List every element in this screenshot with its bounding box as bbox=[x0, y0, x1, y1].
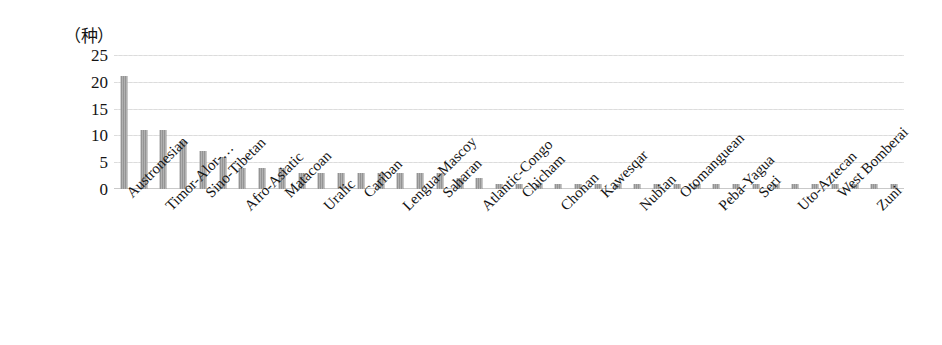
bar-slot bbox=[647, 55, 667, 189]
y-axis-tick-label: 0 bbox=[64, 181, 108, 198]
bar-chart-figure: （种） 0510152025 AustronesianTimor-Alor-…S… bbox=[0, 0, 942, 345]
bar[interactable] bbox=[792, 184, 799, 189]
bar[interactable] bbox=[397, 173, 404, 189]
y-axis-unit-label: （种） bbox=[64, 22, 114, 47]
y-axis-tick-label: 20 bbox=[64, 73, 108, 90]
bar-slot bbox=[252, 55, 272, 189]
bar[interactable] bbox=[476, 178, 483, 189]
bar-slot bbox=[173, 55, 193, 189]
bar-slot bbox=[351, 55, 371, 189]
bar[interactable] bbox=[555, 184, 562, 189]
bar-slot bbox=[489, 55, 509, 189]
x-axis-labels: AustronesianTimor-Alor-…Sino-TibetanAfro… bbox=[114, 190, 904, 340]
y-axis-tick-label: 15 bbox=[64, 100, 108, 117]
bar-slot bbox=[568, 55, 588, 189]
bar-slot bbox=[667, 55, 687, 189]
bar-slot bbox=[726, 55, 746, 189]
y-axis-tick-label: 25 bbox=[64, 47, 108, 64]
bar-slot bbox=[786, 55, 806, 189]
bar-slot bbox=[805, 55, 825, 189]
y-axis-tick-label: 5 bbox=[64, 154, 108, 171]
bar-slot bbox=[884, 55, 904, 189]
bar[interactable] bbox=[871, 184, 878, 189]
bar[interactable] bbox=[318, 173, 325, 189]
y-axis-tick-label: 10 bbox=[64, 127, 108, 144]
bar-slot bbox=[331, 55, 351, 189]
bar-slot bbox=[410, 55, 430, 189]
bar-slot bbox=[114, 55, 134, 189]
y-axis: 0510152025 bbox=[64, 48, 108, 196]
bar[interactable] bbox=[120, 76, 127, 189]
bar[interactable] bbox=[713, 184, 720, 189]
bar[interactable] bbox=[634, 184, 641, 189]
